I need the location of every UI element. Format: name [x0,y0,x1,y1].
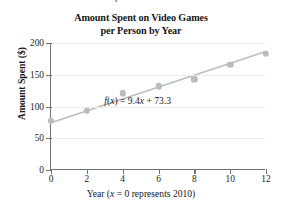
x-axis-tick-label: 0 [49,174,54,184]
gridline-y [51,138,265,139]
x-axis-tick-label: 4 [120,174,125,184]
y-axis-tick-label: 200 [30,38,44,48]
gridline-y [51,107,265,108]
eq-body: = 9.4 [118,95,140,106]
gridline-y [51,75,265,76]
chart-title-line-2: per Person by Year [0,25,282,38]
data-point-marker [263,51,269,57]
x-axis-tick-label: 8 [192,174,197,184]
y-axis-tick [46,75,52,76]
x-axis-title-post: = 0 represents 2010) [114,188,195,199]
x-axis-title-pre: Year ( [87,188,110,199]
gridline-y [51,43,265,44]
y-axis-title: Amount Spent ($) [16,19,27,149]
x-axis-tick-label: 10 [225,174,234,184]
y-axis-tick-label: 100 [30,102,44,112]
y-axis-tick-label: 0 [39,165,44,175]
y-axis-tick [46,107,52,108]
y-axis-tick [46,138,52,139]
y-axis-tick-label: 50 [35,133,44,143]
y-axis-tick [46,43,52,44]
chart-title-line-1: Amount Spent on Video Games [0,12,282,25]
regression-equation-label: f(x) = 9.4x + 73.3 [104,95,171,106]
x-axis-tick-label: 2 [84,174,89,184]
y-axis-tick-label: 150 [30,70,44,80]
clipped-header-text: Amount Spent on Video Games [0,0,282,3]
x-axis-tick-label: 6 [156,174,161,184]
plot-area: 050100150200024681012f(x) = 9.4x + 73.3 [50,43,265,170]
x-axis-title: Year (x = 0 represents 2010) [0,188,282,199]
chart-figure: Amount Spent on Video Games Amount Spent… [0,0,282,206]
eq-tail: + 73.3 [144,95,171,106]
x-axis-tick-label: 12 [261,174,270,184]
chart-title: Amount Spent on Video Games per Person b… [0,12,282,37]
